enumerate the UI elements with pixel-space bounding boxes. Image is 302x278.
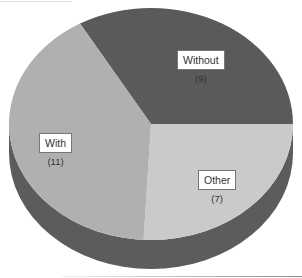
label-other: Other (7) [198, 170, 236, 204]
label-other-name: Other [198, 170, 236, 190]
bottom-divider [62, 276, 302, 277]
label-without-name: Without [177, 50, 225, 70]
label-without: Without (9) [177, 50, 225, 84]
label-with-count: (11) [47, 156, 63, 167]
label-with: With (11) [39, 133, 72, 167]
pie-chart: Without (9) With (11) Other (7) [0, 0, 302, 278]
label-without-count: (9) [195, 73, 207, 84]
label-other-count: (7) [211, 193, 223, 204]
label-with-name: With [39, 133, 72, 153]
